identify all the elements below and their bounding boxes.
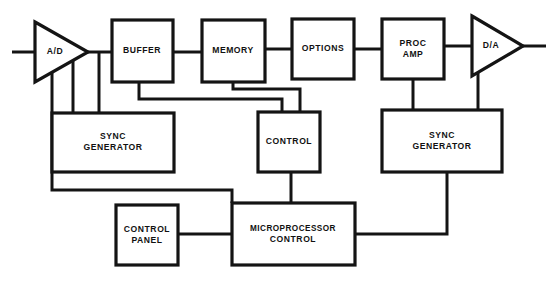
block-label-microprocessor-control: MICROPROCESSOR xyxy=(250,224,336,233)
block-label-microprocessor-control: CONTROL xyxy=(270,234,316,244)
block-proc-amp: PROCAMP xyxy=(382,19,444,79)
block-diagram: A/DBUFFERMEMORYOPTIONSPROCAMPD/ASYNCGENE… xyxy=(0,0,556,282)
block-label-sync-generator-right: GENERATOR xyxy=(412,141,471,151)
block-label-proc-amp: AMP xyxy=(403,49,424,59)
diagram-canvas: A/DBUFFERMEMORYOPTIONSPROCAMPD/ASYNCGENE… xyxy=(0,0,556,282)
block-label-sync-generator-left: SYNC xyxy=(100,131,126,141)
block-label-proc-amp: PROC xyxy=(399,38,426,48)
block-label-sync-generator-left: GENERATOR xyxy=(83,142,142,152)
block-control-panel: CONTROLPANEL xyxy=(116,205,178,265)
block-options: OPTIONS xyxy=(292,19,354,79)
block-buffer: BUFFER xyxy=(112,20,173,82)
block-label-control-panel: PANEL xyxy=(131,235,162,245)
block-label-control-panel: CONTROL xyxy=(124,224,170,234)
block-control: CONTROL xyxy=(258,112,320,172)
block-sync-generator-left: SYNCGENERATOR xyxy=(52,113,174,172)
block-label-da: D/A xyxy=(483,40,499,50)
block-label-control: CONTROL xyxy=(266,136,312,146)
block-label-options: OPTIONS xyxy=(302,43,345,53)
block-label-buffer: BUFFER xyxy=(123,45,161,55)
block-sync-generator-right: SYNCGENERATOR xyxy=(382,110,502,172)
block-label-memory: MEMORY xyxy=(212,45,254,55)
block-memory: MEMORY xyxy=(202,20,265,82)
block-microprocessor-control: MICROPROCESSORCONTROL xyxy=(232,203,355,265)
block-label-ad: A/D xyxy=(47,46,63,56)
block-label-sync-generator-right: SYNC xyxy=(429,130,455,140)
